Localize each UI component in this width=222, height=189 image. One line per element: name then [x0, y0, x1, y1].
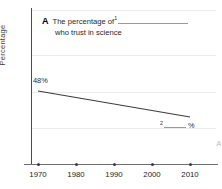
- chart-figure: Percentage AThe percentage of1 who trust…: [0, 0, 222, 189]
- x-tick-dot: [75, 163, 78, 166]
- x-tick-dot: [189, 163, 192, 166]
- x-tick-label: 2000: [143, 170, 160, 179]
- x-tick-dot: [37, 163, 40, 166]
- x-tick-label: 2010: [181, 170, 198, 179]
- x-tick-dot: [151, 163, 154, 166]
- cropped-edge-glyph: A: [216, 139, 221, 148]
- x-tick-label: 1980: [67, 170, 84, 179]
- x-axis-ticks: 1970 1980 1990 2000 2010: [0, 0, 222, 189]
- x-tick-dot: [113, 163, 116, 166]
- x-tick-label: 1970: [29, 170, 46, 179]
- x-tick-label: 1990: [105, 170, 122, 179]
